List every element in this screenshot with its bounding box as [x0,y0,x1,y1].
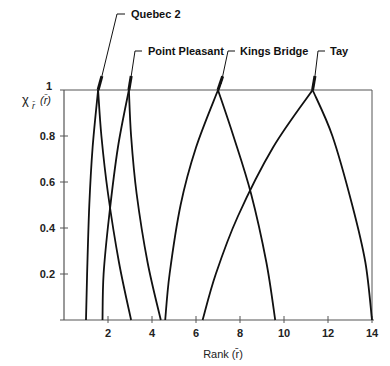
svg-text:χ: χ [22,92,29,107]
series-labels: Quebec 2Point PleasantKings BridgeTay [98,8,349,90]
x-tick-label: 6 [193,327,199,339]
x-tick-label: 12 [322,327,334,339]
leader-marker-point-pleasant [129,76,131,90]
y-tick-label: 0.8 [40,130,55,142]
svg-text:(r̄): (r̄) [40,94,51,106]
label-kings-bridge: Kings Bridge [240,45,308,57]
curve-kings-bridge-rising [165,90,218,320]
plot-area: 2468101214 0.20.40.60.81 Quebec 2Point P… [0,0,390,366]
x-tick-label: 2 [105,327,111,339]
x-tick-label: 8 [237,327,243,339]
label-quebec-2: Quebec 2 [131,8,181,20]
curve-tay-rising [203,90,313,320]
x-axis-title: Rank (r̄) [203,348,243,360]
y-tick-label: 1 [46,80,52,92]
leader-marker-quebec-2 [98,76,102,90]
curve-kings-bridge-falling [218,90,275,320]
leader-marker-kings-bridge [218,76,223,90]
curve-point-pleasant-falling [129,90,161,320]
curve-quebec-2-rising [86,90,98,320]
curve-tay-falling [313,90,372,320]
leader-quebec-2 [100,14,125,84]
x-tick-label: 14 [366,327,379,339]
label-tay: Tay [330,45,349,57]
y-tick-label: 0.6 [40,176,55,188]
x-tick-label: 4 [149,327,156,339]
y-axis-title: χ r̄ (r̄) [22,92,51,111]
axes [60,90,374,320]
svg-text:r̄: r̄ [32,101,36,111]
y-tick-label: 0.2 [40,268,55,280]
y-tick-label: 0.4 [40,222,56,234]
label-point-pleasant: Point Pleasant [148,45,224,57]
curve-point-pleasant-rising [103,90,129,320]
curves [86,90,372,320]
leader-marker-tay [313,76,315,90]
x-tick-label: 10 [278,327,290,339]
